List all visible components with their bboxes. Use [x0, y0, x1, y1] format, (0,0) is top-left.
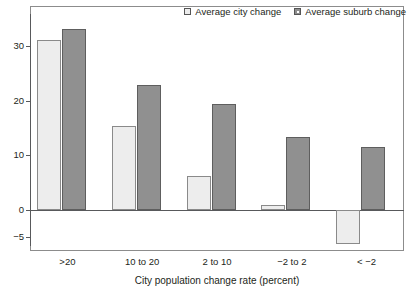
x-label-2: 2 to 10	[202, 256, 231, 267]
plot-axis-area: 3020100−5	[30, 6, 404, 251]
bar-suburb-1	[137, 85, 161, 210]
x-label-0: >20	[59, 256, 75, 267]
bar-suburb-4	[361, 147, 385, 210]
y-axis-line	[30, 14, 31, 246]
bar-city-3	[261, 205, 285, 210]
y-tick-label: 0	[19, 205, 24, 215]
x-label-1: 10 to 20	[125, 256, 159, 267]
y-tick-label: 20	[13, 96, 24, 106]
bar-city-0	[37, 40, 61, 210]
bar-suburb-2	[212, 104, 236, 210]
chart-figure: Average city change Average suburb chang…	[0, 0, 412, 297]
bar-city-1	[112, 126, 136, 210]
y-tick-mark	[26, 210, 30, 211]
bar-suburb-3	[286, 137, 310, 210]
y-tick-label: 30	[13, 41, 24, 51]
x-label-4: < −2	[357, 256, 376, 267]
x-label-3: −2 to 2	[277, 256, 306, 267]
y-tick-mark	[26, 155, 30, 156]
y-tick-mark	[26, 46, 30, 47]
y-tick-label: −5	[13, 232, 24, 242]
bar-suburb-0	[62, 29, 86, 210]
y-tick-mark	[26, 237, 30, 238]
bar-city-2	[187, 176, 211, 210]
y-tick-mark	[26, 101, 30, 102]
x-axis-title: City population change rate (percent)	[30, 275, 404, 287]
y-tick-label: 10	[13, 150, 24, 160]
bar-city-4	[336, 210, 360, 244]
